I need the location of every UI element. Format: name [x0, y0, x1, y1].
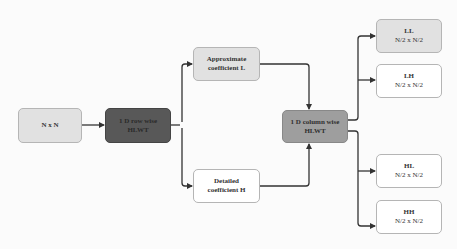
node-detail-line2: coefficient H — [208, 186, 246, 195]
node-ll: LL N/2 x N/2 — [376, 19, 442, 53]
node-input-label: N x N — [41, 121, 58, 130]
node-hl-title: HL — [404, 162, 414, 171]
arrow-approx-to-col — [260, 64, 309, 109]
wavelet-flow-diagram: N x N 1 D row wise HLWT Approximate coef… — [0, 0, 457, 249]
node-hh-size: N/2 x N/2 — [395, 217, 423, 226]
node-hh: HH N/2 x N/2 — [376, 200, 442, 234]
node-hh-title: HH — [404, 208, 415, 217]
node-lh-title: LH — [404, 72, 414, 81]
arrow-col-to-hh — [348, 131, 375, 226]
arrow-col-to-ll — [348, 36, 375, 120]
node-ll-title: LL — [404, 27, 413, 36]
node-hl-size: N/2 x N/2 — [395, 171, 423, 180]
arrow-row-to-detail — [182, 128, 192, 186]
node-approx-line2: coefficient L — [208, 64, 245, 73]
node-lh-size: N/2 x N/2 — [395, 81, 423, 90]
node-col-hlwt-line1: 1 D column wise — [291, 118, 340, 127]
node-detail-coefficient: Detailed coefficient H — [193, 169, 260, 203]
node-approx-coefficient: Approximate coefficient L — [193, 47, 260, 81]
node-input: N x N — [18, 108, 82, 143]
node-row-hlwt-line2: HLWT — [127, 126, 148, 135]
node-hl: HL N/2 x N/2 — [376, 154, 442, 188]
node-detail-line1: Detailed — [214, 177, 239, 186]
node-row-hlwt: 1 D row wise HLWT — [105, 108, 171, 143]
arrow-row-to-approx — [182, 64, 192, 122]
node-row-hlwt-line1: 1 D row wise — [119, 117, 157, 126]
node-ll-size: N/2 x N/2 — [395, 36, 423, 45]
node-column-hlwt: 1 D column wise HLWT — [282, 110, 348, 143]
node-col-hlwt-line2: HLWT — [304, 127, 325, 136]
node-approx-line1: Approximate — [207, 55, 247, 64]
node-lh: LH N/2 x N/2 — [376, 64, 442, 98]
arrow-detail-to-col — [260, 144, 309, 186]
